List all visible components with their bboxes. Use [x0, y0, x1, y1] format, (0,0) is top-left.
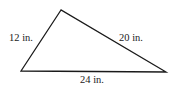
triangle-diagram: 12 in. 20 in. 24 in.	[0, 0, 172, 88]
right-side-label: 20 in.	[119, 33, 143, 44]
bottom-side-label: 24 in.	[80, 75, 104, 86]
left-side-label: 12 in.	[9, 33, 33, 44]
